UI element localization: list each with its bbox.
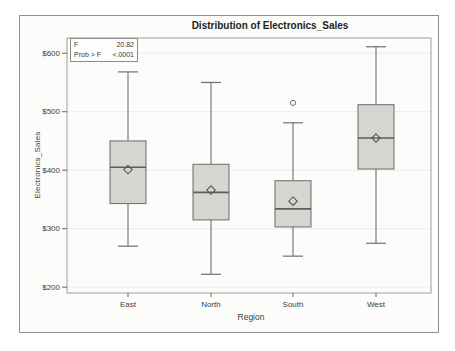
sas-output-panel: Distribution of Electronics_Sales $200$3… [0,0,455,351]
box-east [110,141,146,204]
boxplot-svg: $200$300$400$500$600EastNorthSouthWest [0,0,455,351]
box-west [358,105,394,169]
stat-row-prob: Prob > F <.0001 [71,50,137,60]
stat-prob-value: <.0001 [112,50,134,60]
chart-title: Distribution of Electronics_Sales [192,20,349,31]
y-tick-label: $200 [42,283,60,292]
y-tick-label: $300 [42,224,60,233]
stat-f-label: F [74,40,78,50]
y-tick-label: $600 [42,49,60,58]
stat-prob-label: Prob > F [74,50,101,60]
anova-stats-box: F 20.82 Prob > F <.0001 [70,38,138,62]
x-category-label: West [367,300,386,309]
stat-row-f: F 20.82 [71,40,137,50]
x-axis-title: Region [238,312,265,322]
x-category-label: South [283,300,304,309]
stat-f-value: 20.82 [116,40,134,50]
box-south [275,181,311,227]
x-category-label: North [201,300,221,309]
x-category-label: East [120,300,137,309]
y-axis-title: Electronics_Sales [33,132,42,199]
outlier-point-south [290,100,295,105]
y-tick-label: $500 [42,107,60,116]
y-tick-label: $400 [42,166,60,175]
